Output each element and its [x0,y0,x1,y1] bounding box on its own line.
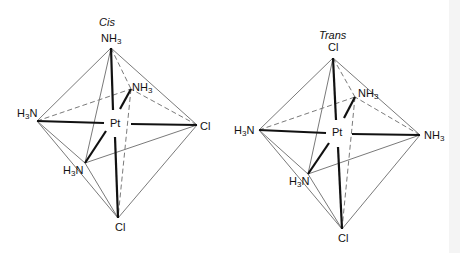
cis-center-atom: Pt [110,118,120,129]
trans-back-ligand: NH3 [358,88,378,101]
page-edge-strip [449,0,460,253]
cis-top-ligand: NH3 [101,33,121,46]
cis-title: Cis [99,17,115,28]
trans-left-ligand: H3N [234,125,254,138]
trans-octahedron [259,58,420,229]
trans-title: Trans [319,30,346,41]
cis-right-ligand: Cl [200,121,210,134]
octahedral-complexes-figure [0,0,460,253]
cis-bottom-ligand: Cl [115,222,125,235]
trans-front-ligand: H3N [289,176,309,189]
trans-top-ligand: Cl [328,42,338,55]
trans-bottom-ligand: Cl [338,233,348,246]
trans-center-atom: Pt [332,127,342,138]
cis-front-ligand: H3N [63,165,83,178]
cis-left-ligand: H3N [17,108,37,121]
trans-right-ligand: NH3 [424,130,444,143]
cis-back-ligand: NH3 [132,82,152,95]
cis-octahedron [37,48,197,218]
